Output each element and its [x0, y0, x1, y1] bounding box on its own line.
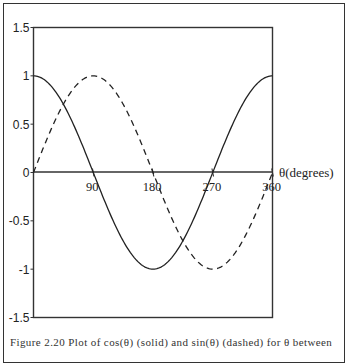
y-tick-label: -1.5	[9, 311, 30, 325]
x-axis-title: θ(degrees)	[279, 165, 334, 180]
x-tick-label: 360	[262, 180, 281, 194]
y-axis-ticks: 1.510.50-0.5-1-1.5	[9, 21, 34, 325]
y-tick-label: 1	[23, 69, 30, 83]
y-tick-label: -1	[19, 263, 30, 277]
y-tick-label: 1.5	[13, 21, 30, 35]
x-tick-label: 180	[143, 180, 162, 194]
figure-caption: Figure 2.20 Plot of cos(θ) (solid) and s…	[10, 336, 348, 348]
y-tick-label: 0.5	[13, 118, 30, 132]
y-tick-label: -0.5	[9, 214, 30, 228]
y-tick-label: 0	[23, 166, 30, 180]
